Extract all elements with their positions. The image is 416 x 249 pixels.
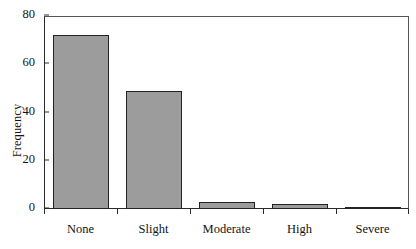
bar (272, 204, 328, 209)
plot-area: 020406080NoneSlightModerateHighSevere (44, 16, 409, 209)
y-axis-tick-mark (44, 63, 49, 64)
bar-chart: Frequency 020406080NoneSlightModerateHig… (0, 0, 416, 249)
bar (199, 202, 255, 209)
x-axis-tick-mark (190, 209, 191, 214)
x-axis-tick-mark (44, 209, 45, 214)
y-axis-tick-label: 80 (23, 6, 36, 23)
y-axis-tick-label: 40 (23, 102, 36, 119)
y-axis-tick-label: 0 (29, 199, 35, 216)
y-axis-tick-mark (44, 111, 49, 112)
y-axis-tick-label: 20 (23, 150, 36, 167)
bar (126, 91, 182, 209)
x-axis-tick-label: Slight (139, 222, 169, 237)
y-axis-tick-label: 60 (23, 54, 36, 71)
y-axis-tick-mark (44, 159, 49, 160)
x-axis-tick-mark (117, 209, 118, 214)
bar (53, 35, 109, 209)
x-axis-tick-label: High (287, 222, 312, 237)
bar (345, 207, 401, 209)
x-axis-tick-mark (408, 209, 409, 214)
x-axis-tick-label: None (67, 222, 94, 237)
y-axis-title: Frequency (10, 71, 25, 191)
x-axis-tick-mark (263, 209, 264, 214)
y-axis-tick-mark (44, 15, 49, 16)
x-axis-tick-mark (336, 209, 337, 214)
x-axis-tick-label: Moderate (203, 222, 251, 237)
x-axis-tick-label: Severe (355, 222, 389, 237)
